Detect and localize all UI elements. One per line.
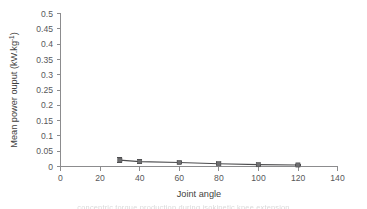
x-tick-label: 100 (251, 173, 266, 183)
data-point-marker (138, 160, 142, 164)
y-axis-title: Mean power ouput (kW.kg-1) (8, 32, 20, 147)
y-tick-label: 0 (48, 162, 53, 172)
y-axis-group: 0.5 0.45 0.4 0.35 0.3 0.25 0.2 0.15 0.1 … (8, 9, 61, 172)
x-tick-label: 140 (330, 173, 345, 183)
x-axis-title: Joint angle (177, 189, 221, 199)
data-series-group (117, 158, 300, 167)
x-tick-label: 20 (95, 173, 105, 183)
x-tick-label: 0 (58, 173, 63, 183)
x-axis-tick-labels: 0 20 40 60 80 100 120 140 (58, 173, 345, 183)
y-tick-label: 0.2 (41, 100, 53, 110)
y-tick-label: 0.35 (36, 55, 53, 65)
series-line (120, 160, 298, 165)
x-axis-group: 0 20 40 60 80 100 120 140 Joint angle (58, 167, 345, 200)
data-point-marker (217, 162, 221, 166)
y-tick-label: 0.4 (41, 39, 53, 49)
y-axis-title-suffix: ) (9, 32, 19, 35)
data-point-marker (177, 160, 181, 164)
data-point-marker (296, 163, 300, 167)
y-tick-label: 0.45 (36, 24, 53, 34)
y-tick-label: 0.15 (36, 116, 53, 126)
y-tick-label: 0.5 (41, 9, 53, 19)
x-tick-label: 120 (291, 173, 306, 183)
x-tick-label: 60 (175, 173, 185, 183)
x-tick-label: 40 (135, 173, 145, 183)
y-tick-label: 0.05 (36, 146, 53, 156)
x-tick-label: 80 (214, 173, 224, 183)
data-point-marker (256, 163, 260, 167)
data-point-marker (118, 158, 122, 162)
y-tick-label: 0.3 (41, 70, 53, 80)
caption-sliver: concentric torque production during isok… (0, 201, 367, 209)
svg-text:Mean power ouput (kW.kg-1): Mean power ouput (kW.kg-1) (8, 32, 20, 147)
y-axis-title-text: Mean power ouput (kW.kg (9, 41, 19, 148)
line-chart: 0.5 0.45 0.4 0.35 0.3 0.25 0.2 0.15 0.1 … (0, 0, 367, 209)
y-tick-label: 0.1 (41, 131, 53, 141)
y-tick-label: 0.25 (36, 85, 53, 95)
y-axis-ticks (57, 14, 61, 167)
y-axis-tick-labels: 0.5 0.45 0.4 0.35 0.3 0.25 0.2 0.15 0.1 … (36, 9, 53, 172)
figure-container: 0.5 0.45 0.4 0.35 0.3 0.25 0.2 0.15 0.1 … (0, 0, 367, 209)
